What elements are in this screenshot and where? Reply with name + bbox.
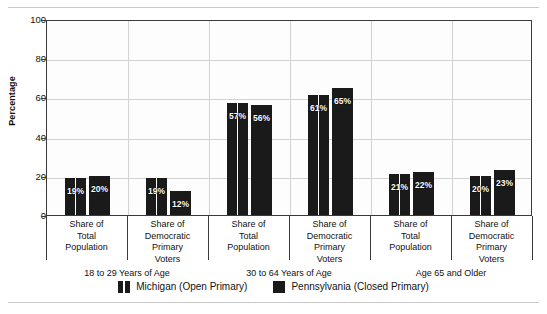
horizontal-gridline (47, 178, 531, 179)
x-category-label-line: Primary (127, 242, 208, 254)
x-category-label-line: Population (208, 242, 289, 254)
bar[interactable]: 20% (89, 176, 110, 215)
bar[interactable]: 19% (65, 178, 86, 215)
plot-area: 19%19%57%61%21%20%20%12%56%65%22%23% (46, 20, 532, 216)
vertical-gridline (290, 21, 291, 215)
x-category-label-line: Total (208, 231, 289, 243)
legend-swatch (273, 281, 285, 293)
legend-item[interactable]: Pennsylvania (Closed Primary) (273, 281, 428, 293)
legend-label: Pennsylvania (Closed Primary) (291, 281, 428, 293)
bar-value-label: 61% (308, 104, 329, 113)
chart-legend: Michigan (Open Primary)Pennsylvania (Clo… (0, 281, 547, 293)
top-divider-rule (8, 7, 539, 8)
x-category-label-line: Democratic (289, 231, 370, 243)
bar-value-label: 20% (89, 185, 110, 194)
bar-value-label: 19% (146, 187, 167, 196)
bar-pattern-split (156, 178, 158, 215)
legend-swatch (118, 281, 130, 293)
x-axis: Share ofTotalPopulationShare ofDemocrati… (46, 216, 532, 314)
x-group-label: 30 to 64 Years of Age (208, 268, 370, 279)
vertical-gridline (209, 21, 210, 215)
legend-label: Michigan (Open Primary) (136, 281, 247, 293)
bar-value-label: 57% (227, 112, 248, 121)
x-category-label-line: Population (46, 242, 127, 254)
x-category-label-line: Share of (370, 219, 451, 231)
bar[interactable]: 23% (494, 170, 515, 215)
x-category-label: Share ofDemocraticPrimaryVoters (451, 219, 532, 265)
x-axis-separator (532, 216, 533, 260)
x-category-label-line: Share of (208, 219, 289, 231)
x-category-label-line: Voters (127, 254, 208, 266)
bar[interactable]: 65% (332, 88, 353, 215)
x-category-label: Share ofTotalPopulation (208, 219, 289, 254)
legend-item[interactable]: Michigan (Open Primary) (118, 281, 247, 293)
bar-pattern-split (399, 174, 401, 215)
x-category-label-line: Democratic (127, 231, 208, 243)
x-category-label-line: Voters (289, 254, 370, 266)
x-group-label: 18 to 29 Years of Age (46, 268, 208, 279)
bar-value-label: 21% (389, 183, 410, 192)
x-category-label-line: Share of (451, 219, 532, 231)
x-category-label: Share ofTotalPopulation (370, 219, 451, 254)
x-category-label-line: Democratic (451, 231, 532, 243)
bar[interactable]: 56% (251, 105, 272, 215)
horizontal-gridline (47, 60, 531, 61)
x-category-label-line: Primary (451, 242, 532, 254)
x-category-label-line: Voters (451, 254, 532, 266)
bar-value-label: 22% (413, 181, 434, 190)
x-category-label-line: Share of (127, 219, 208, 231)
x-category-label-line: Population (370, 242, 451, 254)
horizontal-gridline (47, 99, 531, 100)
bar[interactable]: 61% (308, 95, 329, 215)
bar-value-label: 56% (251, 114, 272, 123)
x-category-label-line: Total (46, 231, 127, 243)
vertical-gridline (452, 21, 453, 215)
bar[interactable]: 20% (470, 176, 491, 215)
bar-pattern-split (75, 178, 77, 215)
bar-pattern-split (480, 176, 482, 215)
vertical-gridline (128, 21, 129, 215)
x-category-label: Share ofDemocraticPrimaryVoters (289, 219, 370, 265)
vertical-gridline (371, 21, 372, 215)
x-category-label-line: Share of (289, 219, 370, 231)
bar-value-label: 20% (470, 185, 491, 194)
bar-value-label: 12% (170, 200, 191, 209)
bar[interactable]: 12% (170, 191, 191, 215)
bar-value-label: 23% (494, 179, 515, 188)
bar[interactable]: 21% (389, 174, 410, 215)
y-axis-ticks: 100806040200 (0, 0, 46, 314)
x-group-label: Age 65 and Older (370, 268, 532, 279)
x-category-label-line: Primary (289, 242, 370, 254)
bar[interactable]: 57% (227, 103, 248, 215)
x-category-label: Share ofDemocraticPrimaryVoters (127, 219, 208, 265)
bar-value-label: 65% (332, 97, 353, 106)
horizontal-gridline (47, 139, 531, 140)
bar[interactable]: 19% (146, 178, 167, 215)
x-category-label-line: Total (370, 231, 451, 243)
bar-chart-figure: Percentage 100806040200 19%19%57%61%21%2… (0, 0, 547, 314)
bar[interactable]: 22% (413, 172, 434, 215)
bar-value-label: 19% (65, 187, 86, 196)
x-category-label: Share ofTotalPopulation (46, 219, 127, 254)
x-category-label-line: Share of (46, 219, 127, 231)
